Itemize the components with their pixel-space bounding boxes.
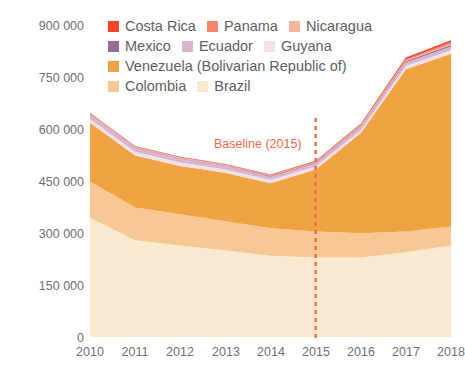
legend-label: Venezuela (Bolivarian Republic of) — [125, 59, 347, 74]
legend-swatch-icon — [289, 21, 300, 32]
legend-item-nicaragua[interactable]: Nicaragua — [289, 19, 372, 34]
x-tick-label: 2014 — [257, 346, 285, 359]
legend-item-panama[interactable]: Panama — [207, 19, 278, 34]
legend-swatch-icon — [182, 41, 193, 52]
chart-legend: Costa Rica Panama Nicaragua Mexico Ecuad… — [108, 16, 456, 96]
x-tick-label: 2016 — [347, 346, 375, 359]
y-tick-label: 0 — [12, 332, 84, 345]
legend-swatch-icon — [108, 41, 119, 52]
legend-label: Panama — [224, 19, 278, 34]
y-tick-label: 150 000 — [12, 280, 84, 293]
legend-label: Mexico — [125, 39, 171, 54]
x-tick-label: 2012 — [166, 346, 194, 359]
x-tick-label: 2015 — [302, 346, 330, 359]
legend-label: Costa Rica — [125, 19, 196, 34]
x-tick-label: 2010 — [76, 346, 104, 359]
y-axis: 900 000 750 000 600 000 450 000 300 000 … — [0, 0, 84, 370]
legend-item-ecuador[interactable]: Ecuador — [182, 39, 253, 54]
y-tick-label: 600 000 — [12, 124, 84, 137]
legend-row: Colombia Brazil — [108, 76, 456, 96]
area-series-brazil — [90, 218, 451, 337]
y-tick-label: 750 000 — [12, 72, 84, 85]
legend-row: Venezuela (Bolivarian Republic of) — [108, 56, 456, 76]
legend-item-guyana[interactable]: Guyana — [264, 39, 332, 54]
legend-item-venezuela[interactable]: Venezuela (Bolivarian Republic of) — [108, 59, 347, 74]
legend-item-mexico[interactable]: Mexico — [108, 39, 171, 54]
legend-item-brazil[interactable]: Brazil — [197, 79, 250, 94]
legend-label: Guyana — [281, 39, 332, 54]
legend-swatch-icon — [197, 81, 208, 92]
legend-swatch-icon — [108, 81, 119, 92]
area-series-colombia — [90, 182, 451, 258]
legend-row: Costa Rica Panama Nicaragua — [108, 16, 456, 36]
legend-row: Mexico Ecuador Guyana — [108, 36, 456, 56]
legend-label: Colombia — [125, 79, 186, 94]
legend-swatch-icon — [108, 61, 119, 72]
x-tick-label: 2018 — [437, 346, 465, 359]
y-tick-label: 300 000 — [12, 228, 84, 241]
legend-item-colombia[interactable]: Colombia — [108, 79, 186, 94]
x-tick-label: 2013 — [212, 346, 240, 359]
legend-label: Brazil — [214, 79, 250, 94]
legend-label: Nicaragua — [306, 19, 372, 34]
legend-swatch-icon — [108, 21, 119, 32]
legend-label: Ecuador — [199, 39, 253, 54]
legend-swatch-icon — [207, 21, 218, 32]
y-tick-label: 900 000 — [12, 20, 84, 33]
legend-item-costa-rica[interactable]: Costa Rica — [108, 19, 196, 34]
x-tick-label: 2017 — [392, 346, 420, 359]
x-tick-label: 2011 — [122, 346, 149, 359]
legend-swatch-icon — [264, 41, 275, 52]
baseline-annotation-label: Baseline (2015) — [214, 138, 302, 151]
y-tick-label: 450 000 — [12, 176, 84, 189]
